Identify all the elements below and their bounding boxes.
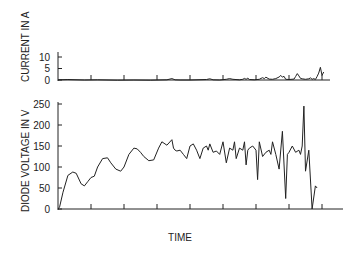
current-ytick-label: 5 [44, 63, 50, 74]
current-ylabel: CURRENT IN A [20, 11, 31, 82]
current-trace [58, 67, 324, 80]
voltage-trace [58, 106, 317, 209]
voltage-ytick-label: 150 [33, 141, 50, 152]
voltage-ytick-label: 200 [33, 120, 50, 131]
chart-figure: CURRENT IN A 0510 DIODE VOLTAGE IN V 050… [0, 0, 364, 253]
voltage-ytick-label: 250 [33, 99, 50, 110]
voltage-panel: DIODE VOLTAGE IN V 050100150200250 [20, 99, 343, 215]
time-xlabel: TIME [168, 232, 192, 243]
voltage-ylabel: DIODE VOLTAGE IN V [20, 109, 31, 212]
voltage-ytick-label: 0 [44, 204, 50, 215]
current-panel: CURRENT IN A 0510 [20, 11, 330, 85]
current-ytick-label: 10 [39, 52, 51, 63]
current-ytick-label: 0 [44, 75, 50, 86]
voltage-ytick-label: 50 [39, 183, 51, 194]
voltage-ytick-label: 100 [33, 162, 50, 173]
